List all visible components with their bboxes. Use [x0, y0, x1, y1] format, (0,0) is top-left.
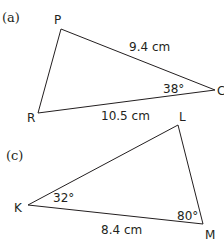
vertex-l: L: [179, 110, 186, 124]
vertex-c: C: [217, 84, 224, 98]
vertex-p: P: [54, 13, 61, 27]
side-km-length: 8.4 cm: [101, 223, 142, 237]
angle-c: 38°: [163, 82, 184, 96]
angle-m: 80°: [177, 209, 198, 223]
vertex-r: R: [27, 111, 35, 125]
triangle-diagrams: (a) P C R 9.4 cm 10.5 cm 38° (c) L K M 3…: [0, 0, 224, 247]
part-label-c: (c): [6, 148, 23, 163]
vertex-k: K: [14, 201, 23, 215]
vertex-m: M: [205, 228, 215, 242]
figure-c: (c) L K M 32° 80° 8.4 cm: [6, 110, 215, 242]
side-pc-length: 9.4 cm: [129, 40, 170, 54]
angle-k: 32°: [53, 191, 74, 205]
part-label-a: (a): [2, 10, 20, 25]
triangle-prc: [38, 29, 215, 113]
side-rc-length: 10.5 cm: [101, 109, 150, 123]
figure-a: (a) P C R 9.4 cm 10.5 cm 38°: [2, 10, 224, 125]
